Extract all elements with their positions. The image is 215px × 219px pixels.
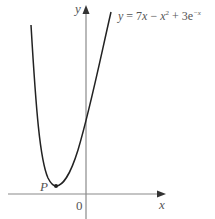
graph: P 0 x y y = 7x − x2 + 3e−x bbox=[0, 0, 215, 219]
y-axis-label: y bbox=[73, 1, 81, 16]
point-p-label: P bbox=[39, 179, 48, 194]
point-p-marker bbox=[54, 184, 58, 188]
y-axis-arrow-icon bbox=[83, 5, 90, 14]
origin-label: 0 bbox=[76, 198, 83, 213]
equation-label: y = 7x − x2 + 3e−x bbox=[117, 9, 202, 23]
curve bbox=[31, 12, 111, 186]
x-axis-label: x bbox=[158, 197, 165, 212]
